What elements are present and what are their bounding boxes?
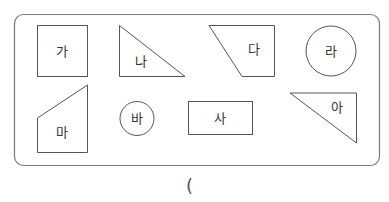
shape-label: 마 — [56, 125, 68, 140]
shape-label: 아 — [331, 100, 343, 115]
shape-ra-circle: 라 — [306, 26, 356, 76]
shape-classification-diagram: 가 나 다 라 마 바 사 아 ( — [0, 0, 389, 202]
answer-open-paren: ( — [186, 175, 193, 196]
frame — [15, 15, 380, 166]
shape-label: 나 — [135, 54, 147, 69]
shape-label: 라 — [325, 44, 337, 59]
shape-ma-pentagon: 마 — [38, 85, 88, 153]
shape-label: 가 — [56, 44, 68, 59]
shape-label: 바 — [131, 111, 143, 126]
shape-a-triangle: 아 — [290, 93, 357, 143]
shape-ga-square: 가 — [38, 26, 88, 77]
shape-na-triangle: 나 — [120, 26, 186, 77]
shape-ba-circle: 바 — [120, 102, 154, 136]
shape-label: 사 — [214, 111, 226, 126]
shape-sa-rectangle: 사 — [189, 102, 253, 135]
shape-label: 다 — [248, 42, 260, 57]
shape-da-trapezoid: 다 — [209, 26, 275, 77]
